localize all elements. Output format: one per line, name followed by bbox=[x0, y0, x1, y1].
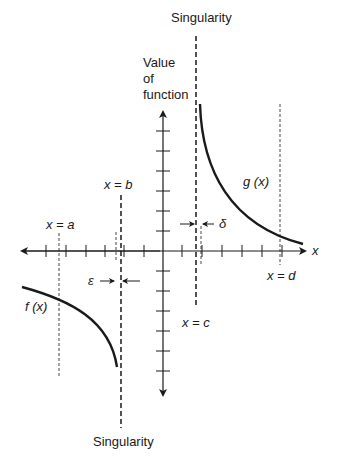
g-x-label: g (x) bbox=[243, 175, 269, 188]
value-label-line2: of bbox=[143, 72, 154, 85]
epsilon-label: ε bbox=[88, 274, 94, 287]
singularity-bottom-label: Singularity bbox=[93, 435, 154, 448]
y-axis bbox=[156, 112, 170, 395]
value-label-line1: Value bbox=[143, 56, 175, 69]
x-axis-label: x bbox=[312, 244, 319, 257]
x-eq-c-label: x = c bbox=[182, 316, 210, 329]
x-eq-d-label: x = d bbox=[267, 269, 296, 282]
f-x-label: f (x) bbox=[25, 300, 47, 313]
singularity-diagram: Singularity Value of function x = b x = … bbox=[0, 0, 342, 459]
x-eq-a-label: x = a bbox=[46, 218, 75, 231]
value-label-line3: function bbox=[143, 88, 189, 101]
singularity-top-label: Singularity bbox=[171, 11, 232, 24]
x-eq-b-label: x = b bbox=[104, 178, 133, 191]
delta-label: δ bbox=[219, 217, 226, 230]
